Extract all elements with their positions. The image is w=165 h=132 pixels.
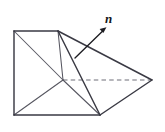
front-ridge-edge [58,31,100,115]
upper-right-slant-edge [58,31,152,80]
normal-vector-arrowhead [100,27,107,33]
interior-to-bottom-mid-edge [63,80,100,115]
lower-diagonal-edge [14,80,63,115]
figure-container: n [0,0,165,132]
upper-diagonal-edge [14,31,63,80]
lower-right-slant-edge [100,80,152,115]
normal-vector-line [75,30,104,58]
normal-vector-label: n [105,12,112,25]
solid-diagram-svg [0,0,165,132]
